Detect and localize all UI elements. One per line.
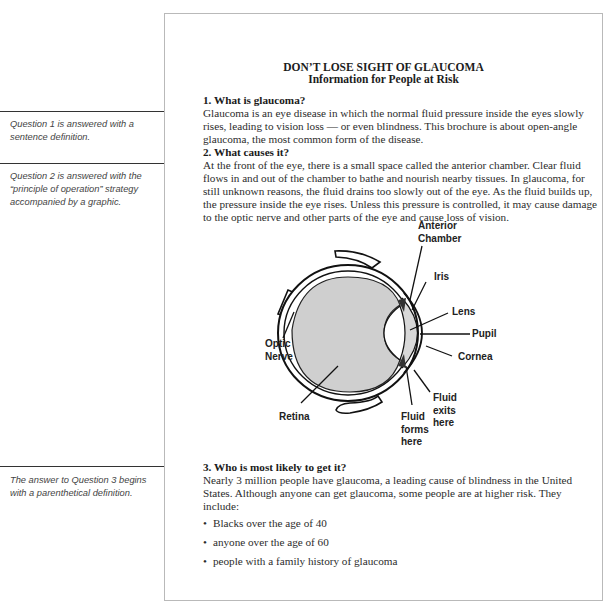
label-cornea: Cornea	[458, 351, 492, 364]
label-retina: Retina	[279, 411, 310, 424]
risk-list: Blacks over the age of 40 anyone over th…	[203, 517, 598, 568]
section-3-heading: 3. Who is most likely to get it?	[203, 461, 598, 474]
risk-item: people with a family history of glaucoma	[203, 555, 598, 568]
label-fluid-exits-here: Fluid exits here	[433, 392, 457, 430]
label-lens: Lens	[452, 306, 475, 319]
section-3: 3. Who is most likely to get it? Nearly …	[203, 461, 598, 574]
label-anterior-chamber: Anterior Chamber	[418, 220, 461, 245]
label-fluid-forms-here: Fluid forms here	[401, 411, 429, 449]
label-pupil: Pupil	[472, 328, 496, 341]
label-iris: Iris	[434, 271, 449, 284]
risk-item: anyone over the age of 60	[203, 536, 598, 549]
section-3-body: Nearly 3 million people have glaucoma, a…	[203, 474, 598, 513]
risk-item: Blacks over the age of 40	[203, 517, 598, 530]
label-optic-nerve: Optic Nerve	[265, 338, 293, 363]
